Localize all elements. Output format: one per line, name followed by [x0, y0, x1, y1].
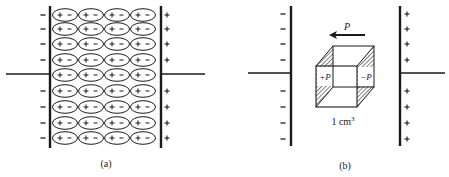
dipole-icon — [79, 132, 104, 145]
dipole-icon — [79, 38, 104, 51]
dipole-icon — [131, 101, 156, 114]
left-plate-negative-charges — [41, 15, 46, 138]
unit-cube: +P −P — [316, 46, 374, 107]
caption-b: (b) — [339, 160, 351, 172]
caption-a: (a) — [100, 158, 111, 170]
volume-exponent: 3 — [351, 115, 355, 123]
dipole-icon — [53, 132, 78, 145]
right-plate-positive-charges — [405, 12, 410, 142]
volume-label: 1 cm3 — [331, 115, 355, 127]
dipole-icon — [53, 23, 78, 36]
dipole-icon — [131, 23, 156, 36]
dipole-icon — [131, 85, 156, 98]
dipole-icon — [79, 101, 104, 114]
dipole-icon — [53, 9, 78, 22]
dipole-icon — [53, 69, 78, 82]
dipole-icon — [105, 117, 130, 130]
plus-charge-icon — [165, 105, 170, 110]
dipole-icon — [53, 85, 78, 98]
dipole-icon — [105, 101, 130, 114]
dipole-icon — [105, 69, 130, 82]
dipole-icon — [79, 117, 104, 130]
plus-charge-icon — [405, 137, 410, 142]
dipole-icon — [105, 38, 130, 51]
plus-charge-icon — [165, 121, 170, 126]
plus-charge-icon — [165, 136, 170, 141]
panel-b: P +P −P 1 cm3 (b) — [248, 6, 445, 172]
negative-face-label: −P — [360, 72, 372, 82]
dipole-icon — [131, 132, 156, 145]
plus-charge-icon — [405, 105, 410, 110]
dipole-icon — [79, 9, 104, 22]
plus-charge-icon — [165, 13, 170, 18]
plus-charge-icon — [405, 121, 410, 126]
dipole-icon — [105, 54, 130, 67]
dipole-icon — [53, 54, 78, 67]
plus-charge-icon — [405, 42, 410, 47]
dipole-icon — [79, 69, 104, 82]
dipole-icon — [79, 54, 104, 67]
dipole-icon — [131, 38, 156, 51]
dipole-icon — [53, 38, 78, 51]
dipole-icon — [53, 101, 78, 114]
dipole-icon — [79, 85, 104, 98]
plus-charge-icon — [165, 42, 170, 47]
plus-charge-icon — [405, 89, 410, 94]
plus-charge-icon — [405, 58, 410, 63]
dipole-icon — [131, 54, 156, 67]
right-plate-positive-charges — [165, 13, 170, 141]
plus-charge-icon — [165, 27, 170, 32]
plus-charge-icon — [165, 89, 170, 94]
arrow-label: P — [343, 21, 350, 32]
panel-a: (a) — [6, 6, 205, 170]
polarization-arrow-icon — [329, 31, 365, 39]
plus-charge-icon — [405, 27, 410, 32]
dipole-icon — [131, 117, 156, 130]
dipole-icon — [131, 9, 156, 22]
dipole-icon — [53, 117, 78, 130]
dipole-grid — [53, 9, 156, 145]
volume-text: 1 cm — [331, 116, 351, 127]
dipole-icon — [105, 9, 130, 22]
positive-face-label: +P — [319, 72, 331, 82]
dipole-icon — [79, 23, 104, 36]
left-plate-negative-charges — [281, 14, 286, 139]
dipole-icon — [105, 85, 130, 98]
dipole-icon — [131, 69, 156, 82]
plus-charge-icon — [405, 12, 410, 17]
plus-charge-icon — [165, 58, 170, 63]
dipole-icon — [105, 132, 130, 145]
capacitor-dielectric-diagram: (a) P — [0, 0, 449, 177]
dipole-icon — [105, 23, 130, 36]
